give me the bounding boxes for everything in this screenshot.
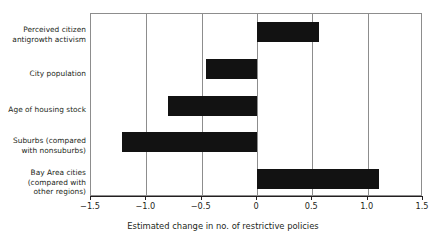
category-label-city-population: City population (0, 69, 86, 79)
x-axis-tick (145, 196, 146, 200)
x-axis-tick (367, 196, 368, 200)
category-label-age-of-housing-stock: Age of housing stock (0, 105, 86, 115)
x-axis-tick-label: 1.5 (402, 201, 442, 211)
x-axis-tick-label: 1.0 (347, 201, 387, 211)
bar (122, 132, 257, 152)
x-axis-tick-label: −1.5 (70, 201, 110, 211)
x-axis-tick-label: −0.5 (181, 201, 221, 211)
category-label-line: with nonsuburbs) (0, 146, 86, 156)
x-axis-tick (256, 196, 257, 200)
x-axis-title: Estimated change in no. of restrictive p… (0, 221, 446, 231)
category-label-perceived-citizen-antigrowth-activism: Perceived citizen antigrowth activism (0, 25, 86, 44)
category-axis-labels: Perceived citizen antigrowth activism Ci… (0, 13, 86, 196)
category-label-line: Perceived citizen (0, 25, 86, 35)
category-label-line: other regions) (0, 187, 86, 197)
x-axis-tick-label: 0 (236, 201, 276, 211)
category-label-bay-area-cities-compared-with-other-regions: Bay Area cities (compared with other reg… (0, 168, 86, 197)
x-axis-tick (201, 196, 202, 200)
category-label-line: Bay Area cities (0, 168, 86, 178)
x-axis-tick-label: −1.0 (125, 201, 165, 211)
category-label-line: (compared with (0, 178, 86, 188)
plot-area (90, 13, 422, 196)
x-axis-tick-label: 0.5 (291, 201, 331, 211)
category-label-suburbs-compared-with-nonsuburbs: Suburbs (compared with nonsuburbs) (0, 136, 86, 155)
x-axis-tick (90, 196, 91, 200)
category-label-line: antigrowth activism (0, 35, 86, 45)
x-axis-tick (311, 196, 312, 200)
category-label-line: Suburbs (compared (0, 136, 86, 146)
bar (168, 96, 257, 116)
bar (257, 22, 319, 42)
bar-chart-figure: Perceived citizen antigrowth activism Ci… (0, 0, 446, 240)
category-label-line: Age of housing stock (0, 105, 86, 115)
bar (257, 169, 379, 189)
x-axis-tick (422, 196, 423, 200)
category-label-line: City population (0, 69, 86, 79)
bar (206, 59, 257, 79)
gridline (146, 14, 147, 195)
